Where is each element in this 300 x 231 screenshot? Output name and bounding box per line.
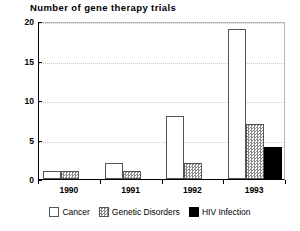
legend-label: Cancer	[62, 207, 89, 217]
x-axis-tick-label-1991: 1991	[121, 185, 140, 195]
bar-cancer-1992[interactable]	[166, 116, 184, 179]
legend-swatch-icon	[49, 207, 59, 217]
y-axis-tick-mark	[38, 22, 42, 23]
legend-item-genetic-disorders[interactable]: Genetic Disorders	[99, 207, 180, 217]
bar-genetic-disorders-1991[interactable]	[123, 171, 141, 179]
x-axis-tick-mark	[38, 180, 39, 184]
x-axis-tick-mark	[162, 180, 163, 184]
bar-group	[166, 23, 220, 179]
x-axis-tick-mark	[223, 180, 224, 184]
bar-group	[105, 23, 159, 179]
y-axis-tick-mark	[38, 101, 42, 102]
bar-hiv-infection-1993[interactable]	[264, 147, 282, 179]
legend-swatch-icon	[189, 207, 199, 217]
chart-container: Number of gene therapy trials 05101520 C…	[0, 0, 300, 231]
legend-label: Genetic Disorders	[112, 207, 180, 217]
bar-genetic-disorders-1992[interactable]	[184, 163, 202, 179]
bar-cancer-1990[interactable]	[43, 171, 61, 179]
bar-genetic-disorders-1993[interactable]	[246, 124, 264, 179]
y-axis-tick-mark	[38, 141, 42, 142]
y-axis-tick-label: 10	[25, 97, 34, 106]
y-axis-tick-label: 20	[25, 18, 34, 27]
legend-item-cancer[interactable]: Cancer	[49, 207, 89, 217]
x-axis-tick-label-1990: 1990	[59, 185, 78, 195]
bar-group	[43, 23, 97, 179]
legend-label: HIV Infection	[202, 207, 251, 217]
y-axis-tick-label: 0	[29, 176, 34, 185]
chart-title: Number of gene therapy trials	[30, 2, 176, 13]
y-axis-tick-label: 5	[29, 136, 34, 145]
y-axis-tick-label: 15	[25, 57, 34, 66]
x-axis-tick-mark	[285, 180, 286, 184]
bar-genetic-disorders-1990[interactable]	[61, 171, 79, 179]
y-axis-tick-mark	[38, 62, 42, 63]
y-axis: 05101520	[0, 22, 34, 180]
legend-swatch-icon	[99, 207, 109, 217]
plot-area	[38, 22, 285, 180]
bar-cancer-1991[interactable]	[105, 163, 123, 179]
x-axis-tick-mark	[100, 180, 101, 184]
chart-legend: CancerGenetic DisordersHIV Infection	[0, 207, 300, 217]
x-axis-tick-label-1992: 1992	[183, 185, 202, 195]
legend-item-hiv-infection[interactable]: HIV Infection	[189, 207, 251, 217]
bar-group	[228, 23, 282, 179]
x-axis-tick-label-1993: 1993	[245, 185, 264, 195]
bar-cancer-1993[interactable]	[228, 29, 246, 179]
